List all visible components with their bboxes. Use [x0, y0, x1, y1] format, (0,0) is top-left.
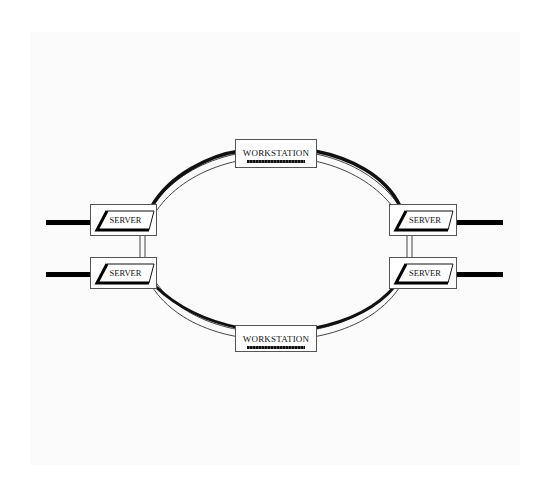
- workstation-top-underline: [247, 160, 305, 163]
- left-top-link-bar: [46, 220, 92, 225]
- server-right-bottom-label: SERVER: [390, 268, 456, 278]
- server-right-top-label: SERVER: [390, 215, 456, 225]
- workstation-top-label: WORKSTATION: [236, 148, 316, 158]
- server-left-bottom-label: SERVER: [91, 268, 156, 278]
- workstation-bottom-underline: [247, 346, 305, 349]
- right-bottom-link-bar: [457, 272, 503, 277]
- server-left-top-label: SERVER: [91, 215, 156, 225]
- server-right-top-node[interactable]: SERVER: [389, 204, 457, 236]
- right-top-link-bar: [457, 220, 503, 225]
- workstation-bottom-label: WORKSTATION: [236, 334, 316, 344]
- server-left-bottom-node[interactable]: SERVER: [90, 257, 157, 289]
- workstation-top-node[interactable]: WORKSTATION: [235, 139, 317, 168]
- server-left-top-node[interactable]: SERVER: [90, 204, 157, 236]
- workstation-bottom-node[interactable]: WORKSTATION: [235, 325, 317, 352]
- ring-connection: [0, 0, 546, 499]
- server-right-bottom-node[interactable]: SERVER: [389, 257, 457, 289]
- left-bottom-link-bar: [46, 272, 92, 277]
